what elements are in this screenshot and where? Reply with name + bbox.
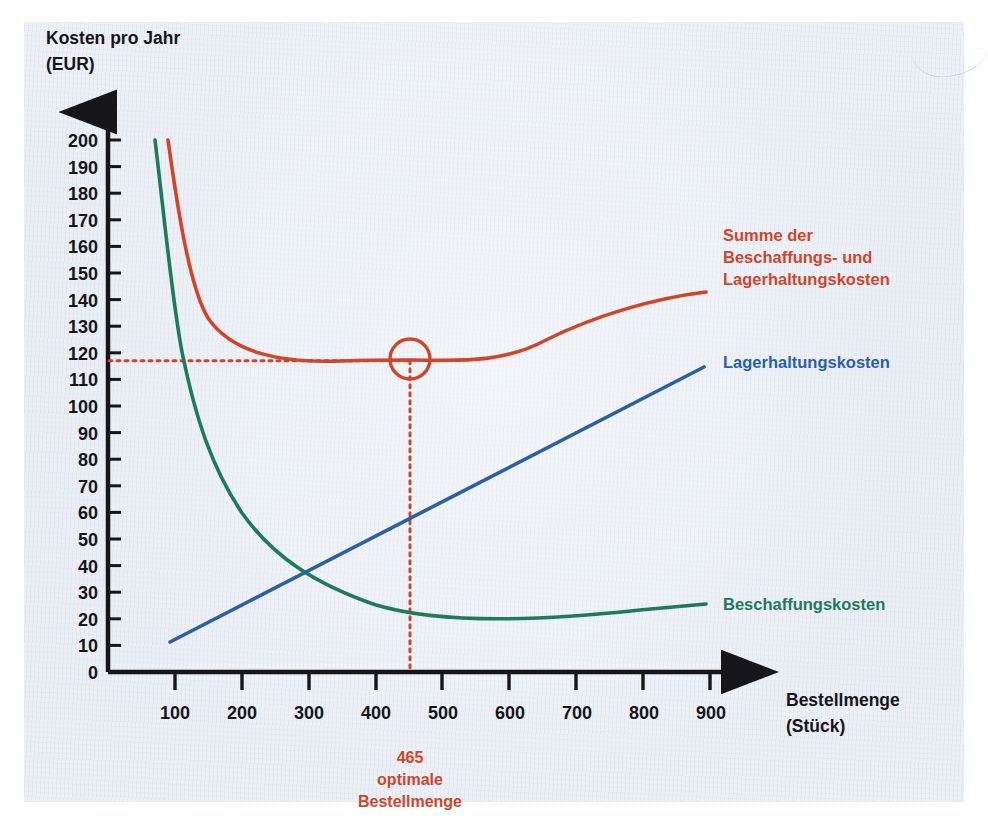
- legend-summe: Summe der Beschaffungs- und Lagerhaltung…: [723, 226, 890, 288]
- y-tick-label-130: 130: [68, 317, 98, 337]
- x-tick-label-600: 600: [495, 703, 525, 723]
- y-tick-label-110: 110: [69, 370, 98, 390]
- y-tick-label-40: 40: [78, 557, 98, 577]
- x-tick-label-300: 300: [294, 703, 324, 723]
- y-tick-label-150: 150: [68, 264, 98, 284]
- y-tick-label-0: 0: [88, 663, 98, 683]
- legend-lagerhaltungskosten: Lagerhaltungskosten: [723, 353, 890, 371]
- optimum-caption-line1: optimale: [377, 771, 443, 788]
- y-tick-label-180: 180: [68, 184, 98, 204]
- x-tick-label-200: 200: [227, 703, 257, 723]
- optimum-caption-line2: Bestellmenge: [358, 793, 462, 810]
- series-line-summe: [168, 140, 706, 361]
- x-axis-tick-labels: 100 200 300 400 500 600 700 800 900: [160, 703, 726, 723]
- y-axis-title-line1: Kosten pro Jahr: [46, 28, 180, 48]
- x-tick-label-500: 500: [428, 703, 458, 723]
- x-tick-label-100: 100: [160, 703, 190, 723]
- legend-summe-line3: Lagerhaltungskosten: [723, 270, 890, 288]
- y-tick-label-190: 190: [68, 158, 98, 178]
- x-axis-title-line1: Bestellmenge: [786, 690, 900, 710]
- y-tick-label-70: 70: [78, 477, 98, 497]
- y-tick-label-160: 160: [68, 237, 98, 257]
- y-tick-label-100: 100: [68, 397, 98, 417]
- y-tick-label-140: 140: [68, 291, 98, 311]
- y-tick-label-10: 10: [78, 636, 98, 656]
- x-axis-title-line2: (Stück): [786, 716, 845, 736]
- y-tick-label-30: 30: [78, 583, 98, 603]
- legend-beschaffungskosten: Beschaffungskosten: [723, 595, 885, 613]
- x-tick-label-400: 400: [361, 703, 391, 723]
- optimum-value-label: 465: [397, 749, 424, 766]
- y-tick-label-50: 50: [78, 530, 98, 550]
- legend-summe-line2: Beschaffungs- und: [723, 248, 872, 266]
- chart-page: Kosten pro Jahr (EUR) Bestellmenge (Stüc…: [0, 0, 988, 837]
- cost-vs-order-quantity-chart: Kosten pro Jahr (EUR) Bestellmenge (Stüc…: [0, 0, 988, 837]
- legend-summe-line1: Summe der: [723, 226, 813, 244]
- y-axis-tick-labels: 200 190 180 170 160 150 140 130 120 110 …: [68, 131, 98, 683]
- y-axis-title-line2: (EUR): [46, 54, 95, 74]
- x-tick-label-800: 800: [629, 703, 659, 723]
- y-tick-label-90: 90: [78, 424, 98, 444]
- x-tick-label-900: 900: [696, 703, 726, 723]
- y-tick-label-170: 170: [68, 211, 98, 231]
- y-tick-label-80: 80: [78, 450, 98, 470]
- series-line-lagerhaltungskosten: [170, 367, 704, 642]
- y-tick-label-120: 120: [68, 344, 98, 364]
- y-tick-label-60: 60: [78, 503, 98, 523]
- y-tick-label-200: 200: [68, 131, 98, 151]
- x-tick-label-700: 700: [562, 703, 592, 723]
- y-tick-label-20: 20: [78, 610, 98, 630]
- x-axis-ticks: [175, 672, 710, 690]
- series-line-beschaffungskosten: [155, 140, 706, 619]
